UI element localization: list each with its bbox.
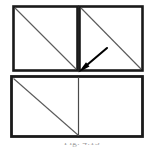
quadrant-top-right (80, 7, 143, 71)
figure-root: Fig. 4.13 (0, 0, 156, 156)
figure-caption: Fig. 4.13 (46, 143, 118, 148)
bottom-rectangle-frame (12, 77, 143, 137)
caption-strip: Fig. 4.13 (0, 143, 156, 156)
quadrant-top-left (14, 7, 78, 71)
bottom-rectangle (12, 77, 143, 137)
figure-diagram (0, 0, 156, 156)
